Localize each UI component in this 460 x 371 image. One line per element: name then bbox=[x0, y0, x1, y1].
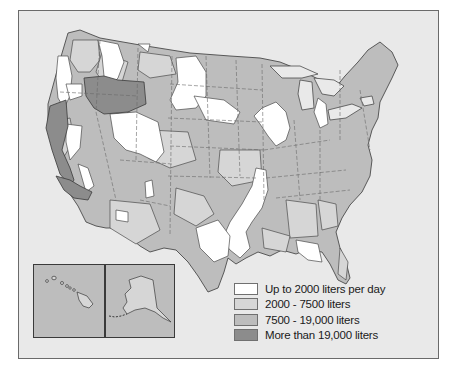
legend-swatch bbox=[234, 283, 258, 295]
legend-label: More than 19,000 liters bbox=[265, 329, 378, 341]
inset-hawaii bbox=[33, 264, 105, 338]
legend-swatch bbox=[234, 314, 258, 326]
legend-swatch bbox=[234, 298, 258, 310]
legend-item-up-to-2000: Up to 2000 liters per day bbox=[234, 281, 385, 296]
legend-label: 2000 - 7500 liters bbox=[265, 298, 350, 310]
inset-alaska bbox=[105, 264, 175, 338]
legend-label: Up to 2000 liters per day bbox=[265, 283, 385, 295]
map-legend: Up to 2000 liters per day 2000 - 7500 li… bbox=[234, 281, 385, 343]
legend-swatch bbox=[234, 329, 258, 341]
legend-item-7500-19000: 7500 - 19,000 liters bbox=[234, 312, 385, 327]
legend-item-2000-7500: 2000 - 7500 liters bbox=[234, 297, 385, 312]
legend-label: 7500 - 19,000 liters bbox=[265, 314, 359, 326]
legend-item-more-than-19000: More than 19,000 liters bbox=[234, 328, 385, 343]
